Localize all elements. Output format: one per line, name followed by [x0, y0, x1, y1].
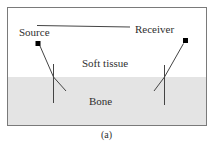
left-refracted-ray: [54, 77, 67, 91]
figure-caption: (a): [0, 129, 213, 140]
figure-canvas: Source Receiver Soft tissue Bone (a): [0, 0, 213, 142]
soft-tissue-label: Soft tissue: [82, 58, 128, 69]
source-receiver-connector-line: [37, 26, 130, 28]
source-label: Source: [19, 27, 50, 38]
ray-diagram-svg: [0, 0, 213, 142]
right-refracted-ray: [154, 77, 165, 91]
left-incident-ray: [40, 46, 54, 77]
right-incident-ray: [165, 44, 184, 78]
receiver-label: Receiver: [135, 24, 174, 35]
receiver-marker: [183, 38, 188, 43]
source-marker: [36, 41, 41, 46]
bone-label: Bone: [89, 96, 112, 107]
